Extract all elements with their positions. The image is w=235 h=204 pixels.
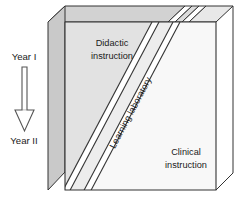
clinical-label-line1: Clinical — [171, 147, 201, 157]
didactic-label-line1: Didactic — [96, 38, 129, 48]
figure-canvas: Didactic instruction Learning laboratory… — [0, 0, 235, 204]
down-arrow-icon — [15, 67, 34, 131]
block-left-side-face — [48, 6, 65, 190]
year-end-label: Year II — [10, 135, 37, 146]
clinical-label-line2: instruction — [165, 160, 207, 170]
year-start-label: Year I — [12, 51, 37, 62]
block-right-bottom-edge — [216, 173, 233, 190]
didactic-top-face — [48, 6, 185, 22]
didactic-label-line2: instruction — [91, 51, 133, 61]
block-diagram: Didactic instruction Learning laboratory… — [0, 0, 235, 204]
